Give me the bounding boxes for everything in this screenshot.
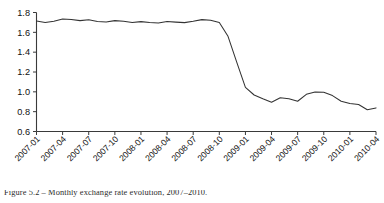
figure-caption-text: Figure 5.2 – Monthly exchange rate evolu… — [4, 190, 207, 197]
y-tick-label: 1.0 — [17, 87, 30, 97]
y-tick-label: 0.8 — [17, 107, 30, 117]
chart-container: 1.81.61.41.21.00.80.6 2007-012007-042007… — [0, 0, 384, 203]
y-tick-label: 1.4 — [17, 47, 30, 57]
chart-background — [0, 0, 384, 203]
figure-caption: Figure 5.2 – Monthly exchange rate evolu… — [0, 190, 384, 203]
y-tick-label: 0.6 — [17, 127, 30, 137]
line-chart: 1.81.61.41.21.00.80.6 2007-012007-042007… — [0, 0, 384, 203]
y-tick-label: 1.8 — [17, 8, 30, 18]
y-tick-label: 1.6 — [17, 28, 30, 38]
y-tick-label: 1.2 — [17, 67, 30, 77]
